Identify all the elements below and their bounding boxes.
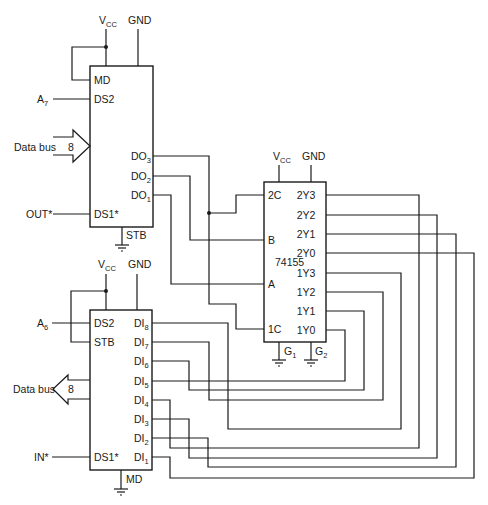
pin-1y1: 1Y1 <box>297 305 316 317</box>
pin-1c: 1C <box>268 323 282 335</box>
pin-1y2: 1Y2 <box>297 286 316 298</box>
output-port-chip: VCC GND MD DS2 DS1* A7 OUT* Data bus 8 D… <box>14 14 153 251</box>
input-port-body <box>90 310 152 470</box>
a7-label: A7 <box>37 93 48 108</box>
out-strobe-label: OUT* <box>26 208 52 220</box>
pin-stb: STB <box>126 229 146 241</box>
pin-ds1-in: DS1* <box>94 451 119 463</box>
input-vcc-label: VCC <box>98 258 116 273</box>
ground-icon <box>115 245 129 251</box>
data-bus-in-label: Data bus <box>14 141 56 153</box>
pin-a: A <box>268 278 275 290</box>
ground-icon <box>114 489 128 495</box>
pin-stb-in: STB <box>94 336 114 348</box>
pin-2y3: 2Y3 <box>297 189 316 201</box>
wire-do3-2c <box>209 195 264 213</box>
pin-1y0: 1Y0 <box>297 324 316 336</box>
ground-icon <box>272 360 286 366</box>
data-bus-out-width: 8 <box>68 383 74 395</box>
output-port-body <box>90 66 153 227</box>
decoder-gnd-label: GND <box>302 150 326 162</box>
pin-b: B <box>268 234 275 246</box>
circuit-schematic: VCC GND MD DS2 DS1* A7 OUT* Data bus 8 D… <box>0 0 488 505</box>
a6-label: A6 <box>37 317 48 332</box>
pin-2y2: 2Y2 <box>297 209 316 221</box>
pin-ds2-in: DS2 <box>94 317 115 329</box>
output-vcc-label: VCC <box>99 14 117 29</box>
wire-do3-1c <box>153 156 264 329</box>
pin-2c: 2C <box>268 189 282 201</box>
pin-2y1: 2Y1 <box>297 228 316 240</box>
decoder-74155-chip: VCC GND 2C B A 1C 74155 2Y3 2Y2 2Y1 2Y0 … <box>264 150 327 366</box>
decoder-vcc-label: VCC <box>273 150 291 165</box>
pin-g1: G1 <box>284 345 296 360</box>
pin-md-in: MD <box>126 473 143 485</box>
data-bus-in-width: 8 <box>68 141 74 153</box>
ground-icon <box>304 360 318 366</box>
pin-g2: G2 <box>315 345 327 360</box>
input-gnd-label: GND <box>128 258 152 270</box>
address-wires <box>153 156 264 329</box>
pin-2y0: 2Y0 <box>297 247 316 259</box>
pin-md: MD <box>94 74 111 86</box>
in-strobe-label: IN* <box>34 451 49 463</box>
pin-ds2: DS2 <box>94 93 115 105</box>
output-gnd-label: GND <box>128 14 152 26</box>
data-bus-out-label: Data bus <box>13 383 55 395</box>
input-port-chip: VCC GND DS2 STB DS1* A6 IN* Data bus 8 D… <box>13 258 152 495</box>
pin-ds1: DS1* <box>94 208 119 220</box>
pin-1y3: 1Y3 <box>297 267 316 279</box>
